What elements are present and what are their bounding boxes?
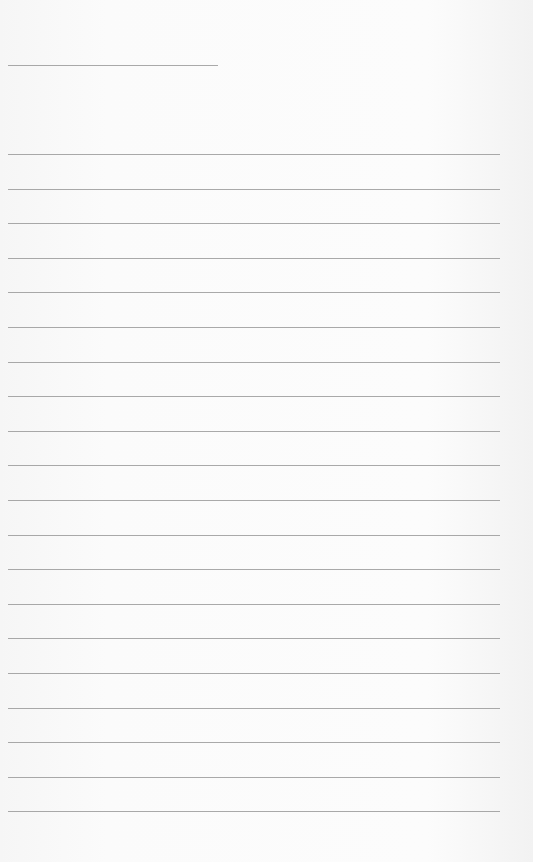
writing-line: [8, 431, 500, 432]
writing-line: [8, 569, 500, 570]
lined-paper-page: [0, 0, 533, 862]
writing-line: [8, 638, 500, 639]
writing-line: [8, 742, 500, 743]
writing-line: [8, 362, 500, 363]
writing-line: [8, 777, 500, 778]
writing-line: [8, 154, 500, 155]
writing-line: [8, 811, 500, 812]
writing-line: [8, 673, 500, 674]
writing-line: [8, 604, 500, 605]
writing-line: [8, 465, 500, 466]
writing-line: [8, 396, 500, 397]
writing-line: [8, 189, 500, 190]
writing-line: [8, 223, 500, 224]
writing-line: [8, 327, 500, 328]
writing-line: [8, 708, 500, 709]
writing-line: [8, 535, 500, 536]
writing-line: [8, 500, 500, 501]
header-line: [8, 65, 218, 66]
writing-line: [8, 258, 500, 259]
writing-line: [8, 292, 500, 293]
